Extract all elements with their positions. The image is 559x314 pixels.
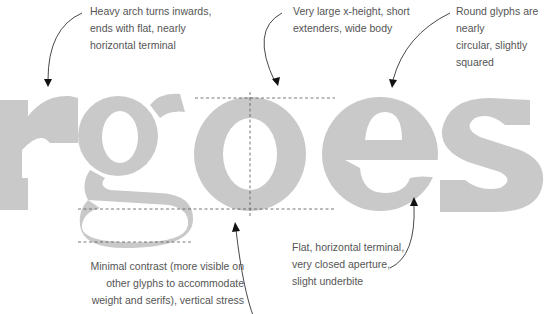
- annotation-arch: Heavy arch turns inwards, ends with flat…: [90, 3, 211, 54]
- annotation-xheight: Very large x-height, short extenders, wi…: [293, 3, 410, 37]
- annotation-round: Round glyphs are nearly circular, slight…: [456, 3, 559, 71]
- type-specimen-diagram: Heavy arch turns inwards, ends with flat…: [0, 0, 559, 314]
- glyph-s: [440, 98, 543, 212]
- arrow-xheight: [264, 13, 282, 82]
- glyph-r: [0, 96, 78, 210]
- annotation-terminal: Flat, horizontal terminal, very closed a…: [292, 239, 404, 290]
- arrow-arch: [48, 13, 82, 80]
- annotation-contrast: Minimal contrast (more visible on other …: [56, 258, 244, 309]
